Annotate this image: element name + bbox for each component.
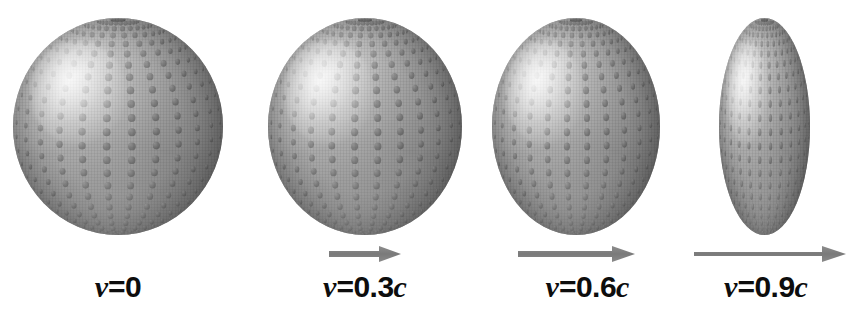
light-speed-symbol: c xyxy=(394,270,407,303)
panel-v09c: v=0.9c xyxy=(680,0,852,323)
velocity-value: =0 xyxy=(108,270,141,303)
label-v06c: v=0.6c xyxy=(480,272,695,302)
sphere-body-v0 xyxy=(13,18,223,235)
sphere-body-v09c xyxy=(719,18,810,235)
velocity-symbol: v xyxy=(724,270,737,303)
ellipsoid-shape xyxy=(492,18,660,235)
velocity-symbol: v xyxy=(95,270,108,303)
velocity-symbol: v xyxy=(546,270,559,303)
ellipsoid-shape xyxy=(268,18,462,235)
sphere-body-v03c xyxy=(268,18,462,235)
rim-shadow xyxy=(268,18,462,235)
sphere-body-v06c xyxy=(492,18,660,235)
velocity-value: =0.6 xyxy=(559,270,616,303)
label-v03c: v=0.3c xyxy=(250,272,480,302)
velocity-value: =0.3 xyxy=(336,270,393,303)
rim-shadow xyxy=(719,18,810,235)
label-v0: v=0 xyxy=(0,272,236,302)
light-speed-symbol: c xyxy=(795,270,808,303)
panel-v03c: v=0.3c xyxy=(250,0,480,323)
ellipsoid-shape xyxy=(719,18,810,235)
panel-v0: v=0 xyxy=(0,0,236,323)
ellipsoid-shape xyxy=(13,18,223,235)
velocity-symbol: v xyxy=(323,270,336,303)
velocity-arrow-v03c xyxy=(329,243,401,265)
light-speed-symbol: c xyxy=(616,270,629,303)
rim-shadow xyxy=(492,18,660,235)
label-v09c: v=0.9c xyxy=(680,272,852,302)
velocity-arrow-v06c xyxy=(518,243,635,265)
panel-v06c: v=0.6c xyxy=(480,0,695,323)
velocity-value: =0.9 xyxy=(737,270,794,303)
rim-shadow xyxy=(13,18,223,235)
figure-canvas: v=0 xyxy=(0,0,852,323)
velocity-arrow-v09c xyxy=(694,243,846,265)
